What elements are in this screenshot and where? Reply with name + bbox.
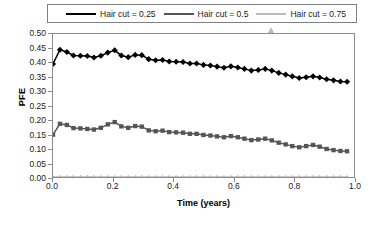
- data-point-marker: [324, 76, 330, 82]
- data-point-marker: [270, 138, 274, 142]
- data-point-marker: [304, 144, 308, 148]
- data-point-marker: [228, 63, 234, 69]
- x-tick-mark: [294, 178, 295, 182]
- data-point-marker: [180, 59, 186, 65]
- data-point-marker: [106, 122, 110, 126]
- data-point-marker: [105, 50, 111, 56]
- x-tick-label: 0.4: [153, 181, 193, 191]
- x-tick-mark: [113, 178, 114, 182]
- data-point-marker: [53, 133, 55, 137]
- legend-label-haircut-025: Hair cut = 0.25: [100, 9, 156, 19]
- data-point-marker: [221, 65, 227, 71]
- data-point-marker: [337, 78, 343, 84]
- y-tick-label: 0.50: [18, 28, 46, 38]
- legend-label-haircut-075: Hair cut = 0.75: [290, 9, 346, 19]
- data-point-marker: [255, 67, 261, 73]
- data-point-marker: [159, 57, 165, 63]
- x-tick-label: 1.0: [335, 181, 370, 191]
- series-1: [53, 47, 350, 85]
- y-tick-label: 0.45: [18, 43, 46, 53]
- data-point-marker: [297, 145, 301, 149]
- data-point-marker: [147, 128, 151, 132]
- legend-line-marker-diamond-icon: [66, 8, 96, 19]
- legend-line-marker-square-icon: [164, 8, 194, 19]
- pfe-line-chart: Hair cut = 0.25 Hair cut = 0.5 Hair cut …: [0, 0, 370, 225]
- y-tick-label: 0.30: [18, 86, 46, 96]
- data-point-marker: [263, 137, 267, 141]
- data-point-marker: [146, 56, 152, 62]
- data-point-marker: [173, 59, 179, 65]
- data-point-marker: [113, 120, 117, 124]
- y-tick-label: 0.20: [18, 115, 46, 125]
- data-point-marker: [193, 60, 199, 66]
- x-tick-mark: [355, 178, 356, 182]
- data-point-marker: [119, 124, 123, 128]
- data-point-marker: [236, 135, 240, 139]
- data-point-marker: [201, 133, 205, 137]
- series-canvas: [53, 34, 354, 177]
- data-point-marker: [57, 47, 63, 53]
- data-point-marker: [256, 137, 260, 141]
- data-point-marker: [283, 72, 289, 78]
- x-tick-mark: [52, 178, 53, 182]
- data-point-marker: [166, 58, 172, 64]
- data-point-marker: [92, 127, 96, 131]
- y-tick-label: 0.35: [18, 72, 46, 82]
- x-tick-label: 0.0: [32, 181, 72, 191]
- data-point-marker: [241, 66, 247, 72]
- data-point-marker: [84, 53, 90, 59]
- data-point-marker: [167, 130, 171, 134]
- data-point-marker: [235, 64, 241, 70]
- data-point-marker: [283, 142, 287, 146]
- series-line: [53, 122, 347, 151]
- data-point-marker: [222, 135, 226, 139]
- y-tick-label: 0.10: [18, 144, 46, 154]
- data-point-marker: [153, 129, 157, 133]
- data-point-marker: [200, 62, 206, 68]
- data-point-marker: [98, 53, 104, 59]
- data-point-marker: [276, 70, 282, 76]
- data-point-marker: [139, 52, 145, 58]
- y-tick-label: 0.05: [18, 159, 46, 169]
- data-point-marker: [248, 68, 254, 74]
- data-point-marker: [132, 52, 138, 58]
- data-point-marker: [242, 137, 246, 141]
- data-point-marker: [91, 54, 97, 60]
- data-point-marker: [64, 49, 70, 55]
- x-tick-mark: [173, 178, 174, 182]
- data-point-marker: [126, 126, 130, 130]
- x-tick-label: 0.6: [214, 181, 254, 191]
- data-point-marker: [311, 143, 315, 147]
- data-point-marker: [215, 134, 219, 138]
- plot-area: [52, 33, 355, 178]
- x-tick-label: 0.2: [93, 181, 133, 191]
- data-point-marker: [214, 64, 220, 70]
- data-point-marker: [344, 79, 350, 85]
- data-point-marker: [153, 57, 159, 63]
- data-point-marker: [229, 134, 233, 138]
- legend-entry-haircut-025: Hair cut = 0.25: [58, 5, 156, 22]
- data-point-marker: [70, 52, 76, 58]
- y-tick-label: 0.15: [18, 130, 46, 140]
- data-point-marker: [207, 62, 213, 68]
- legend-line-marker-triangle-icon: [256, 8, 286, 19]
- data-point-marker: [71, 126, 75, 130]
- chart-legend: Hair cut = 0.25 Hair cut = 0.5 Hair cut …: [47, 4, 357, 23]
- data-point-marker: [78, 126, 82, 130]
- data-point-marker: [296, 75, 302, 81]
- x-tick-mark: [234, 178, 235, 182]
- data-point-marker: [345, 149, 349, 153]
- data-point-marker: [160, 128, 164, 132]
- data-point-marker: [290, 144, 294, 148]
- series-line: [53, 50, 347, 82]
- series-3: [53, 175, 350, 177]
- data-point-marker: [208, 133, 212, 137]
- data-point-marker: [331, 148, 335, 152]
- data-point-marker: [277, 141, 281, 145]
- y-tick-label: 0.40: [18, 57, 46, 67]
- data-point-marker: [194, 132, 198, 136]
- data-point-marker: [58, 122, 62, 126]
- data-point-marker: [310, 73, 316, 79]
- data-point-marker: [289, 73, 295, 79]
- data-point-marker: [174, 130, 178, 134]
